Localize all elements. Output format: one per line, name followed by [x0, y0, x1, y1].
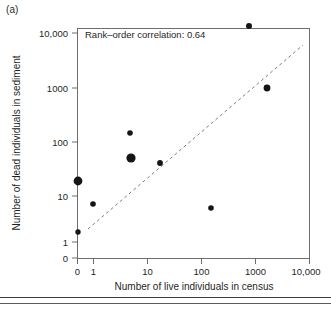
plot-frame — [78, 29, 310, 259]
x-tick-label-0: 0 — [75, 266, 80, 277]
data-point — [75, 229, 80, 234]
y-axis-title: Number of dead individuals in sediment — [11, 55, 22, 230]
data-point — [126, 153, 135, 162]
data-point — [246, 23, 252, 29]
trend-line — [88, 45, 303, 229]
x-axis-title: Number of live individuals in census — [115, 281, 274, 292]
x-tick-label-1000: 1000 — [245, 266, 266, 277]
x-tick-label-10000: 10,000 — [291, 266, 320, 277]
footer-rule-top — [0, 297, 331, 298]
footer-rule-bottom — [0, 303, 331, 304]
figure-panel-a: (a) 10,000 1000 100 10 1 0 0 — [0, 0, 331, 311]
data-point — [90, 201, 96, 207]
data-point — [157, 160, 163, 166]
x-axis-ticks — [78, 259, 310, 265]
y-tick-label-10000: 10,000 — [39, 28, 68, 39]
y-tick-label-0: 0 — [63, 253, 68, 264]
correlation-annotation: Rank–order correlation: 0.64 — [85, 29, 205, 40]
data-point — [264, 85, 271, 92]
data-points — [74, 23, 271, 235]
y-tick-label-100: 100 — [52, 137, 68, 148]
x-tick-label-1: 1 — [91, 266, 96, 277]
y-tick-label-1: 1 — [63, 237, 68, 248]
data-point — [74, 177, 83, 186]
x-tick-label-100: 100 — [194, 266, 210, 277]
x-tick-label-10: 10 — [142, 266, 153, 277]
y-tick-label-1000: 1000 — [47, 83, 68, 94]
scatter-plot: 10,000 1000 100 10 1 0 0 1 10 100 1000 1… — [0, 0, 331, 311]
y-axis-ticks — [72, 33, 78, 258]
y-tick-label-10: 10 — [57, 191, 68, 202]
data-point — [208, 205, 214, 211]
data-point — [127, 130, 133, 136]
